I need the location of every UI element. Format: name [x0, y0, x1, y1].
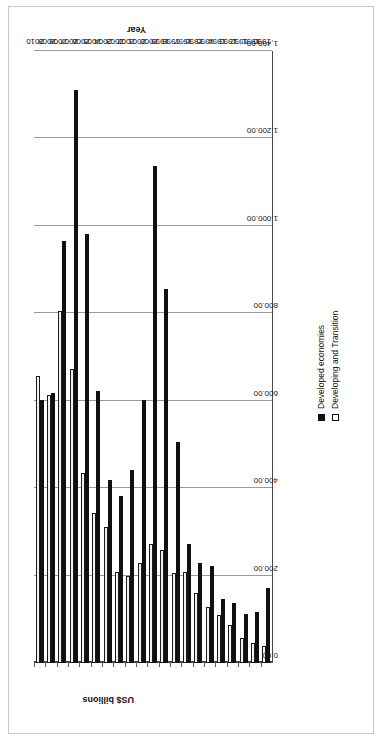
category-tick [57, 663, 58, 667]
bar-developing-and-transition-2007 [70, 369, 74, 663]
category-tick [91, 663, 92, 667]
bar-developed-economies-1997 [187, 544, 191, 663]
outlined-square-marker-icon [332, 414, 339, 421]
bar-developed-economies-2005 [96, 391, 100, 663]
category-tick [193, 663, 194, 667]
bar-developing-and-transition-2009 [47, 395, 51, 663]
plot-area [34, 51, 272, 663]
bar-developing-and-transition-2008 [58, 311, 62, 663]
bar-developing-and-transition-2004 [104, 527, 108, 663]
bar-developed-economies-2002 [130, 470, 134, 663]
value-tick-label: 1,200.00 [247, 126, 278, 135]
category-tick [102, 663, 103, 667]
bar-developing-and-transition-1995 [206, 607, 210, 663]
bar-developed-economies-1995 [210, 566, 214, 663]
gridline [34, 137, 272, 138]
bar-developed-economies-1993 [232, 603, 236, 663]
category-tick [34, 663, 35, 667]
category-tick [238, 663, 239, 667]
bar-developing-and-transition-2006 [81, 473, 85, 663]
category-tick [125, 663, 126, 667]
value-tick-label: 600.00 [254, 389, 278, 398]
bar-developed-economies-2010 [40, 400, 44, 663]
value-tick-label: 200.00 [254, 564, 278, 573]
bar-developed-economies-2007 [74, 90, 78, 663]
category-tick [227, 663, 228, 667]
category-tick [159, 663, 160, 667]
bar-developed-economies-2009 [51, 393, 55, 663]
bar-developing-and-transition-1994 [217, 615, 221, 663]
bar-developed-economies-2008 [62, 241, 66, 663]
category-tick [215, 663, 216, 667]
category-tick [136, 663, 137, 667]
chart-area: 0.00200.00400.00600.00800.001,000.001,20… [16, 21, 368, 721]
category-tick [113, 663, 114, 667]
bar-developed-economies-2000 [153, 166, 157, 663]
bar-developing-and-transition-2005 [92, 513, 96, 663]
rotated-chart-container: 0.00200.00400.00600.00800.001,000.001,20… [16, 21, 368, 721]
bar-developed-economies-2006 [85, 234, 89, 663]
bar-developing-and-transition-1998 [172, 573, 176, 663]
legend: Developed economies Developing and Trans… [316, 311, 340, 421]
legend-item-developed: Developed economies [316, 311, 326, 421]
category-tick [170, 663, 171, 667]
category-tick [249, 663, 250, 667]
bar-developing-and-transition-2010 [36, 376, 40, 663]
bar-developed-economies-1991 [255, 612, 259, 663]
value-tick-label: 800.00 [254, 301, 278, 310]
category-tick [181, 663, 182, 667]
category-axis-tick-labels: 1990199119921993199419951996199719981999… [34, 23, 272, 49]
category-tick [204, 663, 205, 667]
bar-developing-and-transition-2000 [149, 544, 153, 663]
bar-developing-and-transition-2003 [115, 572, 119, 663]
bar-developing-and-transition-1999 [160, 550, 164, 663]
value-tick-label: 0.00 [262, 651, 278, 660]
value-axis-title: US$ billions [82, 695, 134, 705]
bar-developing-and-transition-1992 [240, 638, 244, 663]
category-tick [79, 663, 80, 667]
legend-label-developing: Developing and Transition [330, 311, 340, 409]
value-tick-label: 1,000.00 [247, 214, 278, 223]
bar-developed-economies-1998 [176, 442, 180, 663]
category-tick [147, 663, 148, 667]
category-axis-title: Year [127, 25, 146, 35]
category-tick [68, 663, 69, 667]
bar-developing-and-transition-1996 [194, 594, 198, 664]
bar-developing-and-transition-1997 [183, 572, 187, 663]
bar-developed-economies-1992 [244, 614, 248, 663]
bar-developed-economies-2001 [142, 400, 146, 663]
bar-developed-economies-1999 [164, 289, 168, 663]
screenshot-page: 0.00200.00400.00600.00800.001,000.001,20… [0, 0, 385, 742]
category-tick-label: 2010 [27, 37, 45, 46]
bar-developed-economies-1994 [221, 599, 225, 663]
filled-square-marker-icon [318, 414, 325, 421]
value-tick-label: 400.00 [254, 476, 278, 485]
bar-developed-economies-2003 [119, 496, 123, 663]
legend-item-developing: Developing and Transition [330, 311, 340, 421]
value-axis-tick-labels: 0.00200.00400.00600.00800.001,000.001,20… [278, 51, 320, 663]
bar-developing-and-transition-2001 [138, 563, 142, 663]
bar-developing-and-transition-2002 [126, 576, 130, 663]
category-tick [261, 663, 262, 667]
bar-developing-and-transition-1993 [228, 625, 232, 663]
category-tick [45, 663, 46, 667]
bar-developing-and-transition-1991 [251, 643, 255, 663]
bar-developed-economies-2004 [108, 480, 112, 663]
legend-label-developed: Developed economies [316, 325, 326, 409]
bar-developed-economies-1996 [198, 563, 202, 663]
gridline [34, 50, 272, 51]
